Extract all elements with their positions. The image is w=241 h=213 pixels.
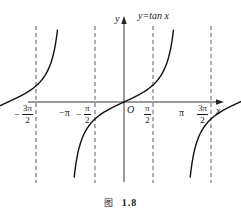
figure-number: 1.8	[122, 197, 138, 208]
function-label: y=tan x	[138, 11, 169, 21]
y-axis-label: y	[115, 14, 119, 24]
origin-label: O	[127, 105, 134, 115]
tick-neg-pi-2: π 2	[84, 104, 91, 125]
tick-3pi-2: 3π 2	[197, 104, 208, 125]
tick-neg-3pi-2: 3π 2	[22, 104, 33, 125]
tick-neg-pi-2-sign: −	[76, 110, 82, 120]
y-axis-arrow-icon	[121, 16, 126, 24]
tick-neg-3pi-2-sign: −	[14, 110, 20, 120]
figure-caption: 图1.8	[0, 196, 241, 209]
tick-neg-pi: −π	[59, 108, 70, 118]
tick-pi: π	[179, 108, 184, 118]
x-axis-label: x	[216, 106, 220, 116]
asymptotes	[36, 26, 211, 183]
figure-word: 图	[104, 198, 113, 208]
x-axis-arrow-icon	[216, 99, 224, 104]
tick-pi-2: π 2	[144, 104, 151, 125]
